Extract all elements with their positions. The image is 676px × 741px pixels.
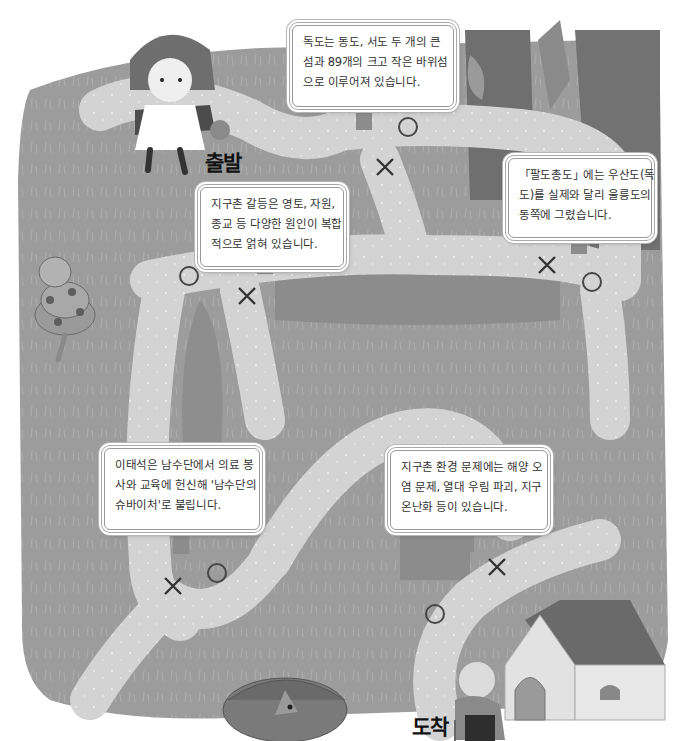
sign-text-line: 지구촌 갈등은 영토, 자원, xyxy=(211,194,333,214)
sign-post xyxy=(458,528,474,552)
sign-text-line: 적으로 얽혀 있습니다. xyxy=(211,234,333,254)
maze-scene: 독도는 동도, 서도 두 개의 큰 섬과 89개의 크고 작은 바위섬 으로 이… xyxy=(0,0,676,741)
o-mark-icon[interactable] xyxy=(179,266,199,286)
sign-text-line: 도)를 실제와 달리 울릉도의 xyxy=(519,185,641,205)
pond-illustration xyxy=(223,678,347,741)
x-mark-icon[interactable] xyxy=(236,285,258,307)
sign-text-line: 「팔도총도」에는 우산도(독 xyxy=(519,165,641,185)
x-mark-icon[interactable] xyxy=(162,575,184,597)
sign-text-line: 으로 이루어져 있습니다. xyxy=(303,72,443,92)
x-mark-icon[interactable] xyxy=(374,156,396,178)
o-mark-icon[interactable] xyxy=(582,272,602,292)
sign-text-line: 염 문제, 열대 우림 파괴, 지구 xyxy=(401,477,537,497)
end-label: 도착 xyxy=(412,710,448,740)
sign-text-line: 사와 교육에 헌신해 '남수단의 xyxy=(115,475,249,495)
sign-text-line: 슈바이처'로 불립니다. xyxy=(115,495,249,515)
sign-text-line: 이태석은 남수단에서 의료 봉 xyxy=(115,455,249,475)
o-mark-icon[interactable] xyxy=(207,563,227,583)
sign-post xyxy=(356,110,372,130)
grass-background xyxy=(0,0,676,741)
sign-text-line: 온난화 등이 있습니다. xyxy=(401,497,537,517)
o-mark-icon[interactable] xyxy=(398,117,418,137)
x-mark-icon[interactable] xyxy=(536,254,558,276)
quiz-sign-paldo: 「팔도총도」에는 우산도(독 도)를 실제와 달리 울릉도의 동쪽에 그렸습니다… xyxy=(508,158,652,238)
sign-text-line: 동쪽에 그렸습니다. xyxy=(519,205,641,225)
sign-text-line: 지구촌 환경 문제에는 해양 오 xyxy=(401,457,537,477)
sign-post xyxy=(173,530,189,554)
quiz-sign-conflict: 지구촌 갈등은 영토, 자원, 종교 등 다양한 원인이 복합 적으로 얽혀 있… xyxy=(200,187,344,267)
quiz-sign-leetaeseok: 이태석은 남수단에서 의료 봉 사와 교육에 헌신해 '남수단의 슈바이처'로 … xyxy=(104,448,260,530)
sign-text-line: 독도는 동도, 서도 두 개의 큰 xyxy=(303,32,443,52)
start-label: 출발 xyxy=(205,146,241,176)
o-mark-icon[interactable] xyxy=(425,604,445,624)
x-mark-icon[interactable] xyxy=(486,556,508,578)
sign-text-line: 종교 등 다양한 원인이 복합 xyxy=(211,214,333,234)
quiz-sign-environment: 지구촌 환경 문제에는 해양 오 염 문제, 열대 우림 파괴, 지구 온난화 … xyxy=(390,450,548,530)
quiz-sign-dokdo: 독도는 동도, 서도 두 개의 큰 섬과 89개의 크고 작은 바위섬 으로 이… xyxy=(292,25,454,107)
sign-text-line: 섬과 89개의 크고 작은 바위섬 xyxy=(303,52,443,72)
